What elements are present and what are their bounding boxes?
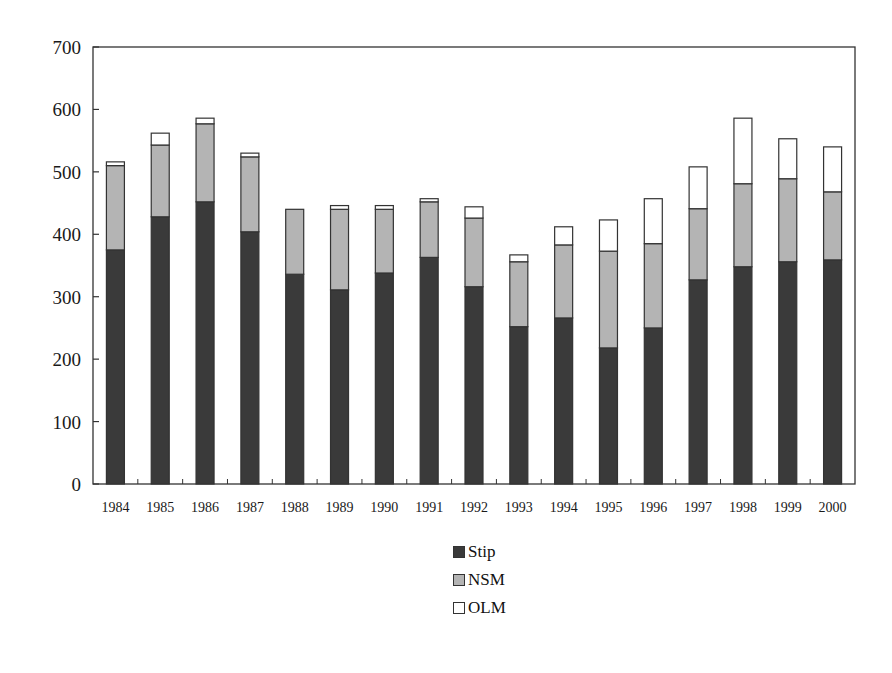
x-tick-label: 1988 xyxy=(281,500,309,515)
bar-segment-olm xyxy=(510,255,528,262)
bar-segment-stip xyxy=(151,217,169,484)
x-tick-label: 1989 xyxy=(326,500,354,515)
x-tick-label: 1992 xyxy=(460,500,488,515)
y-tick-label: 600 xyxy=(53,99,82,120)
y-tick-label: 200 xyxy=(53,349,82,370)
stip-swatch-icon xyxy=(453,546,465,558)
bar-segment-olm xyxy=(555,227,573,245)
bar-segment-nsm xyxy=(779,179,797,262)
bar-segment-nsm xyxy=(734,184,752,267)
bar-segment-olm xyxy=(375,206,393,210)
x-tick-label: 1993 xyxy=(505,500,533,515)
legend-item-stip: Stip xyxy=(453,538,506,566)
x-tick-label: 2000 xyxy=(819,500,847,515)
bar-segment-olm xyxy=(644,199,662,244)
bar-segment-nsm xyxy=(241,157,259,232)
x-tick-label: 1991 xyxy=(415,500,443,515)
bar-segment-olm xyxy=(420,199,438,202)
bar-segment-nsm xyxy=(106,166,124,250)
bar-segment-stip xyxy=(510,327,528,484)
bar-segment-nsm xyxy=(465,218,483,287)
bar-segment-nsm xyxy=(331,209,349,290)
bar-segment-stip xyxy=(241,232,259,484)
olm-swatch-icon xyxy=(453,602,465,614)
bar-segment-olm xyxy=(734,118,752,184)
bar-segment-olm xyxy=(196,118,214,124)
y-tick-label: 0 xyxy=(72,474,82,495)
legend-item-nsm: NSM xyxy=(453,566,506,594)
bar-segment-olm xyxy=(779,139,797,179)
bar-segment-stip xyxy=(555,318,573,484)
bar-segment-stip xyxy=(824,260,842,484)
legend-label: NSM xyxy=(468,570,505,590)
bar-segment-nsm xyxy=(689,209,707,280)
bar-segment-stip xyxy=(734,267,752,484)
bar-segment-nsm xyxy=(420,202,438,258)
legend-label: Stip xyxy=(468,542,495,562)
bar-segment-stip xyxy=(375,273,393,484)
x-tick-label: 1986 xyxy=(191,500,219,515)
x-tick-label: 1990 xyxy=(370,500,398,515)
bars xyxy=(106,118,841,484)
bar-segment-olm xyxy=(151,133,169,145)
x-tick-label: 1995 xyxy=(594,500,622,515)
y-tick-label: 300 xyxy=(53,287,82,308)
bar-segment-olm xyxy=(689,167,707,209)
x-tick-label: 1984 xyxy=(101,500,129,515)
y-axis: 0100200300400500600700 xyxy=(53,37,100,495)
bar-segment-nsm xyxy=(510,262,528,327)
bar-segment-stip xyxy=(689,280,707,484)
x-tick-label: 1999 xyxy=(774,500,802,515)
bar-segment-nsm xyxy=(644,244,662,328)
bar-segment-nsm xyxy=(599,251,617,348)
y-tick-label: 400 xyxy=(53,224,82,245)
bar-segment-stip xyxy=(779,262,797,484)
bar-segment-stip xyxy=(644,328,662,484)
bar-segment-nsm xyxy=(555,245,573,318)
bar-segment-stip xyxy=(331,290,349,484)
bar-segment-olm xyxy=(241,153,259,157)
x-tick-label: 1994 xyxy=(550,500,578,515)
x-tick-label: 1985 xyxy=(146,500,174,515)
y-tick-label: 500 xyxy=(53,162,82,183)
bar-segment-stip xyxy=(286,274,304,484)
bar-segment-nsm xyxy=(151,145,169,217)
legend-item-olm: OLM xyxy=(453,594,506,622)
x-tick-label: 1996 xyxy=(639,500,667,515)
bar-segment-olm xyxy=(824,147,842,192)
y-tick-label: 700 xyxy=(53,37,82,58)
bar-segment-stip xyxy=(420,257,438,484)
x-tick-label: 1987 xyxy=(236,500,264,515)
legend-label: OLM xyxy=(468,598,506,618)
x-tick-label: 1998 xyxy=(729,500,757,515)
bar-segment-nsm xyxy=(286,209,304,274)
bar-segment-nsm xyxy=(375,209,393,273)
legend: Stip NSM OLM xyxy=(453,538,506,622)
bar-segment-olm xyxy=(599,220,617,251)
bar-segment-nsm xyxy=(824,192,842,260)
bar-segment-olm xyxy=(465,207,483,218)
nsm-swatch-icon xyxy=(453,574,465,586)
bar-segment-olm xyxy=(106,162,124,166)
bar-segment-stip xyxy=(196,202,214,484)
bar-segment-stip xyxy=(106,250,124,484)
bar-segment-stip xyxy=(465,287,483,484)
bar-segment-olm xyxy=(331,206,349,210)
y-tick-label: 100 xyxy=(53,412,82,433)
stacked-bar-chart: 0100200300400500600700 19841985198619871… xyxy=(0,0,892,673)
x-tick-label: 1997 xyxy=(684,500,712,515)
bar-segment-stip xyxy=(599,348,617,484)
bar-segment-nsm xyxy=(196,124,214,202)
